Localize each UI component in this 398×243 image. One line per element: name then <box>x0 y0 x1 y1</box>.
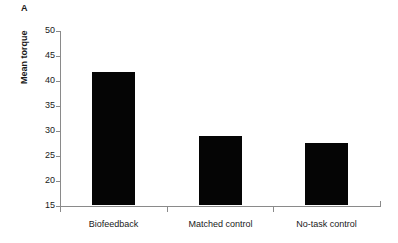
y-tick-mark <box>56 106 60 107</box>
y-axis-line <box>60 31 61 207</box>
y-tick-label: 40 <box>45 75 55 86</box>
x-axis-label: Biofeedback <box>60 219 167 230</box>
y-tick-label: 45 <box>45 50 55 61</box>
plot-area: 5045403530252015 BiofeedbackMatched cont… <box>60 31 380 206</box>
bar <box>199 136 242 205</box>
y-tick-label: 15 <box>45 200 55 211</box>
x-axis-label: No-task control <box>273 219 380 230</box>
y-tick-mark <box>56 56 60 57</box>
y-tick-mark <box>56 31 60 32</box>
y-tick-label: 20 <box>45 175 55 186</box>
y-tick-mark <box>56 156 60 157</box>
x-axis-end-tick <box>380 201 381 207</box>
y-tick-mark <box>56 181 60 182</box>
y-axis-title: Mean torque <box>19 70 30 84</box>
y-tick-label: 50 <box>45 25 55 36</box>
bar <box>92 72 135 205</box>
y-tick-mark <box>56 81 60 82</box>
y-tick-mark <box>56 131 60 132</box>
y-tick-label: 30 <box>45 125 55 136</box>
x-tick-mark <box>167 207 168 212</box>
panel-label: A <box>21 3 28 14</box>
x-axis-line <box>60 206 381 207</box>
bar <box>305 143 348 205</box>
x-axis-label: Matched control <box>167 219 274 230</box>
figure-panel: A Mean torque 5045403530252015 Biofeedba… <box>0 0 398 243</box>
y-tick-label: 35 <box>45 100 55 111</box>
x-tick-mark <box>273 207 274 212</box>
y-tick-label: 25 <box>45 150 55 161</box>
x-tick-mark <box>60 207 61 212</box>
